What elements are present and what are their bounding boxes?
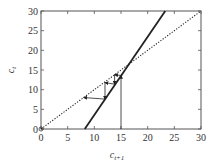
y-tick-label: 25 (28, 25, 38, 36)
y-tick-label: 10 (28, 84, 38, 95)
y-axis-label: ct (5, 66, 18, 73)
x-tick-label: 5 (65, 132, 70, 143)
phase-line (85, 11, 166, 129)
x-tick-label: 20 (143, 132, 153, 143)
tick-labels: 051015202530051015202530 (28, 6, 206, 144)
cobweb-segment (84, 98, 105, 100)
x-tick-label: 0 (39, 132, 44, 143)
x-tick-label: 15 (116, 132, 126, 143)
y-tick-label: 20 (28, 45, 38, 56)
x-tick-label: 10 (89, 132, 99, 143)
cobweb-segment (105, 83, 115, 85)
y-tick-label: 5 (33, 104, 38, 115)
y-tick-label: 0 (33, 124, 38, 135)
x-tick-label: 30 (196, 132, 206, 143)
data-series (39, 11, 201, 131)
y-tick-label: 15 (28, 65, 38, 76)
y-tick-label: 30 (28, 6, 38, 17)
cobweb-chart: 051015202530051015202530 ct+1ct (0, 0, 216, 167)
cobweb-segment (115, 75, 121, 76)
x-axis-label: ct+1 (110, 149, 125, 162)
x-tick-label: 25 (169, 132, 179, 143)
